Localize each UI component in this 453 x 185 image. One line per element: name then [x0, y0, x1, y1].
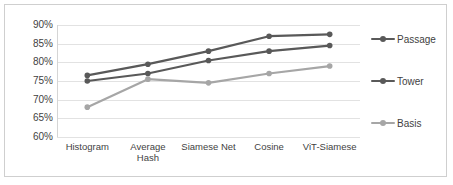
plot-area	[57, 25, 360, 137]
data-point	[206, 58, 212, 64]
data-point	[206, 80, 212, 86]
legend-label: Tower	[397, 76, 424, 87]
legend-swatch-icon	[371, 118, 395, 128]
data-point	[327, 32, 333, 38]
y-axis-tick-label: 85%	[33, 39, 53, 49]
y-axis-tick-label: 65%	[33, 113, 53, 123]
data-point	[85, 73, 91, 79]
series-basis	[85, 63, 333, 110]
data-point	[145, 71, 151, 77]
x-axis-tick-label: ViT-Siamese	[292, 141, 368, 152]
legend-label: Passage	[397, 34, 436, 45]
data-point	[327, 43, 333, 49]
legend-swatch-icon	[371, 76, 395, 86]
data-point	[266, 33, 272, 39]
data-point	[327, 63, 333, 69]
data-point	[206, 48, 212, 54]
series-lines	[57, 25, 360, 137]
data-point	[266, 48, 272, 54]
y-axis-tick-label: 90%	[33, 20, 53, 30]
series-line	[87, 34, 329, 75]
data-point	[266, 71, 272, 77]
data-point	[85, 78, 91, 84]
series-line	[87, 66, 329, 107]
data-point	[145, 61, 151, 67]
y-axis-tick-label: 75%	[33, 76, 53, 86]
legend-item-passage[interactable]: Passage	[371, 33, 436, 45]
data-point	[145, 76, 151, 82]
y-axis-tick-label: 80%	[33, 57, 53, 67]
legend-label: Basis	[397, 118, 421, 129]
chart-screenshot: 90%85%80%75%70%65%60% HistogramAverage H…	[0, 0, 453, 185]
chart-legend: PassageTowerBasis	[371, 29, 451, 133]
data-point	[85, 104, 91, 110]
legend-swatch-icon	[371, 34, 395, 44]
y-axis-tick-label: 70%	[33, 95, 53, 105]
legend-item-basis[interactable]: Basis	[371, 117, 421, 129]
y-axis-tick-labels: 90%85%80%75%70%65%60%	[17, 25, 53, 137]
chart-frame: 90%85%80%75%70%65%60% HistogramAverage H…	[4, 4, 447, 177]
gridline	[57, 137, 360, 138]
legend-item-tower[interactable]: Tower	[371, 75, 424, 87]
